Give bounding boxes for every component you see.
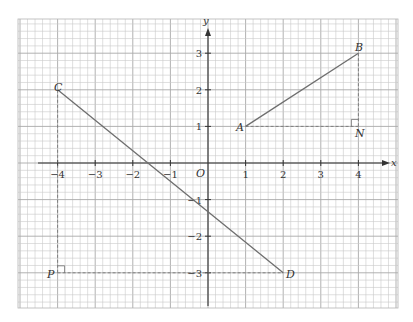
y-tick-label: −3 [187,268,202,279]
y-tick-label: 3 [196,48,202,59]
x-tick-label: 1 [242,169,248,180]
x-axis-arrow-icon [382,160,390,166]
x-tick-label: −1 [163,169,178,180]
point-label-b: B [354,41,363,54]
point-label-p: P [46,268,55,281]
y-tick-label: −2 [187,231,202,242]
y-axis-arrow-icon [205,28,211,36]
right-angle-marker-p [58,266,65,273]
point-label-d: D [285,268,295,281]
y-tick-label: 1 [196,121,202,132]
x-tick-label: −3 [88,169,103,180]
axes [38,28,390,306]
origin-label: O [196,167,205,180]
x-tick-label: 2 [280,169,286,180]
y-tick-label: 2 [196,85,202,96]
point-label-n: N [354,127,365,140]
x-tick-label: −2 [125,169,140,180]
point-label-c: C [54,81,63,94]
point-label-a: A [235,121,244,134]
coordinate-diagram: −4−3−2−11234321−1−2−3 x y O A B N C D P [0,0,413,322]
x-tick-label: 3 [318,169,324,180]
x-axis-label: x [391,157,397,168]
x-tick-label: 4 [355,169,361,180]
right-angle-marker-n [351,119,358,126]
y-axis-label: y [202,15,209,26]
